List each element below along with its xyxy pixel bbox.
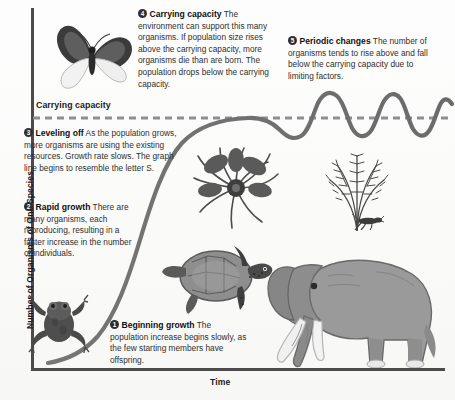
sea-anemone-illustration	[186, 140, 286, 230]
callout-carrying-capacity: 4Carrying capacity The environment can s…	[138, 9, 280, 90]
callout-badge-1: 1	[110, 320, 119, 329]
carrying-capacity-label: Carrying capacity	[36, 100, 111, 110]
sea-turtle-illustration	[162, 232, 280, 316]
callout-badge-4: 4	[138, 9, 147, 18]
callout-badge-5: 5	[288, 36, 297, 45]
callout-title-beginning-growth: Beginning growth	[122, 320, 195, 330]
callout-periodic-changes: 5Periodic changes The number of organism…	[288, 36, 440, 82]
callout-title-rapid-growth: Rapid growth	[36, 202, 91, 212]
callout-title-periodic-changes: Periodic changes	[300, 36, 371, 46]
callout-badge-2: 2	[24, 202, 33, 211]
callout-rapid-growth: 2Rapid growth There are many organisms, …	[24, 202, 132, 260]
callout-badge-3: 3	[24, 128, 33, 137]
callout-beginning-growth: 1Beginning growth The population increas…	[110, 320, 250, 366]
butterfly-illustration	[46, 12, 138, 98]
callout-body-carrying-capacity: The environment can support this many or…	[138, 9, 269, 89]
frog-illustration	[28, 292, 90, 354]
callout-title-leveling-off: Leveling off	[36, 128, 84, 138]
callout-title-carrying-capacity: Carrying capacity	[150, 9, 222, 19]
population-growth-figure: Number of Organisms of One Species Time …	[0, 0, 455, 400]
callout-leveling-off: 3Leveling off As the population grows, m…	[24, 128, 182, 174]
elephant-illustration	[266, 228, 442, 368]
